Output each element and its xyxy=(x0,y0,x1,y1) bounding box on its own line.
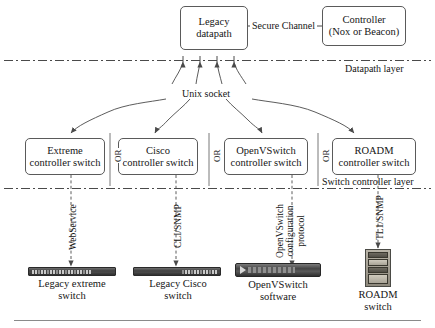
secure-channel-label: Secure Channel xyxy=(250,20,317,31)
legacy-datapath-line2: datapath xyxy=(196,28,232,39)
switch-ports xyxy=(179,270,220,274)
unix-socket-fanout xyxy=(172,62,246,84)
device-caption-roadm: ROADM switch xyxy=(322,289,434,313)
controller-box[interactable]: Controller (Nox or Beacon) xyxy=(322,6,406,46)
protocol-label-tl1-snmp: TL1/SNMP xyxy=(375,195,385,240)
legacy-datapath-label: Legacy datapath xyxy=(194,16,234,40)
or-label-1: OR xyxy=(113,148,123,163)
legacy-extreme-caption-line2: switch xyxy=(58,290,85,301)
cisco-controller-switch-line1: Cisco xyxy=(146,145,170,156)
device-caption-openvswitch: OpenVSwitch software xyxy=(222,279,334,303)
openvswitch-controller-switch-label: OpenVSwitch controller switch xyxy=(229,145,304,169)
controller-label: Controller (Nox or Beacon) xyxy=(327,14,402,38)
protocol-label-webservice: WebService xyxy=(68,204,78,250)
roadm-card xyxy=(368,267,388,273)
legacy-datapath-line1: Legacy xyxy=(199,16,230,27)
openvswitch-controller-switch-box[interactable]: OpenVSwitch controller switch xyxy=(224,138,308,175)
legacy-cisco-caption-line1: Legacy Cisco xyxy=(149,278,206,289)
openvswitch-controller-switch-line2: controller switch xyxy=(231,157,302,168)
server-bezel-icon xyxy=(240,266,246,274)
network-architecture-diagram: Legacy datapath Secure Channel Controlle… xyxy=(0,0,435,328)
cisco-controller-switch-label: Cisco controller switch xyxy=(121,145,196,169)
unix-socket-stubs xyxy=(183,56,234,62)
openvswitch-caption-line2: software xyxy=(260,291,296,302)
rack-switch-icon xyxy=(133,267,221,276)
extreme-controller-switch-line2: controller switch xyxy=(30,157,101,168)
roadm-caption-line1: ROADM xyxy=(358,289,397,300)
openvswitch-controller-switch-line1: OpenVSwitch xyxy=(236,145,296,156)
legacy-extreme-caption-line1: Legacy extreme xyxy=(38,278,105,289)
switch-ports xyxy=(29,270,91,274)
device-caption-legacy-extreme: Legacy extreme switch xyxy=(14,278,130,302)
server-drive-bays xyxy=(248,267,295,273)
switch-controller-layer-label: Switch controller layer xyxy=(322,176,414,187)
roadm-card xyxy=(368,252,388,258)
roadm-controller-switch-line1: ROADM xyxy=(354,145,393,156)
protocol-label-cli-snmp: CLI/SNMP xyxy=(173,204,183,248)
legacy-datapath-box[interactable]: Legacy datapath xyxy=(180,6,248,50)
protocol-ovs-line3: protocol xyxy=(296,215,306,247)
extreme-controller-switch-label: Extreme controller switch xyxy=(28,145,103,169)
datapath-layer-label: Datapath layer xyxy=(345,63,404,74)
server-icon xyxy=(235,263,321,277)
protocol-ovs-line2: configuration xyxy=(285,205,295,256)
unix-socket-label: Unix socket xyxy=(182,88,230,99)
extreme-controller-switch-box[interactable]: Extreme controller switch xyxy=(25,138,105,175)
cisco-controller-switch-box[interactable]: Cisco controller switch xyxy=(118,138,198,175)
openvswitch-caption-line1: OpenVSwitch xyxy=(248,279,308,290)
or-label-2: OR xyxy=(212,148,222,163)
controller-line1: Controller xyxy=(342,14,385,25)
roadm-controller-switch-label: ROADM controller switch xyxy=(337,145,412,169)
rack-switch-icon xyxy=(28,267,116,276)
or-label-3: OR xyxy=(321,148,331,163)
controller-line2: (Nox or Beacon) xyxy=(329,26,400,37)
figure-bottom-rule xyxy=(14,320,421,321)
roadm-chassis-icon xyxy=(365,249,391,287)
roadm-caption-line2: switch xyxy=(364,301,391,312)
protocol-label-openvswitch-config-protocol: OpenVSwitch configuration protocol xyxy=(275,200,306,262)
socket-to-controller-branches xyxy=(71,99,354,133)
roadm-controller-switch-line2: controller switch xyxy=(339,157,410,168)
roadm-card xyxy=(368,259,388,265)
extreme-controller-switch-line1: Extreme xyxy=(47,145,83,156)
roadm-controller-switch-box[interactable]: ROADM controller switch xyxy=(332,138,416,175)
cisco-controller-switch-line2: controller switch xyxy=(123,157,194,168)
roadm-card xyxy=(368,274,388,284)
legacy-cisco-caption-line2: switch xyxy=(164,290,191,301)
device-caption-legacy-cisco: Legacy Cisco switch xyxy=(120,278,236,302)
protocol-ovs-line1: OpenVSwitch xyxy=(275,204,285,258)
